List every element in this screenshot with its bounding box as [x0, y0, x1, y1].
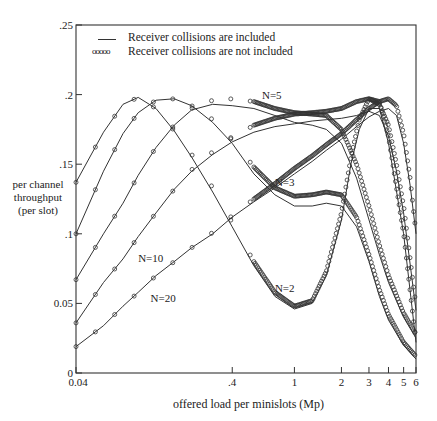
series-n-5 — [74, 97, 417, 338]
legend: Receiver collisions are included ooooo R… — [92, 30, 293, 58]
series-layer — [74, 97, 417, 359]
curve-label: N=5 — [262, 89, 282, 101]
y-tick-label: .1 — [65, 228, 73, 240]
x-axis-label: offered load per minislots (Mp) — [0, 397, 437, 412]
curve-label: N=3 — [275, 176, 295, 188]
x-tick-label: 5 — [401, 376, 407, 388]
legend-label-included: Receiver collisions are included — [128, 30, 275, 44]
y-label-line-3: (per slot) — [2, 204, 74, 217]
circle-marker-icon: ooooo — [92, 44, 128, 58]
y-tick-label: .2 — [65, 89, 73, 101]
curve-label: N=10 — [138, 252, 164, 264]
y-tick-label: .25 — [59, 19, 73, 31]
series-n-20 — [74, 97, 417, 349]
legend-item-not-included: ooooo Receiver collisions are not includ… — [92, 44, 293, 58]
legend-label-not-included: Receiver collisions are not included — [128, 44, 293, 58]
x-tick-label: .4 — [228, 376, 237, 388]
x-tick-label: 3 — [366, 376, 372, 388]
x-tick-label: 1 — [292, 376, 298, 388]
solid-line-icon — [92, 30, 128, 44]
x-tick-label: 6 — [413, 376, 419, 388]
x-tick-label: 2 — [339, 376, 345, 388]
curve-label: N=2 — [275, 282, 295, 294]
curve-label: N=20 — [151, 292, 177, 304]
y-label-line-2: throughput — [2, 191, 74, 204]
x-tick-label: 4 — [386, 376, 392, 388]
y-tick-label: .15 — [59, 158, 73, 170]
y-label-line-1: per channel — [2, 178, 74, 191]
x-tick-label: 0.04 — [68, 376, 88, 388]
y-tick-label: 0.05 — [54, 297, 74, 309]
legend-item-included: Receiver collisions are included — [92, 30, 293, 44]
series-n-2 — [74, 97, 417, 342]
y-axis-label: per channel throughput (per slot) — [2, 178, 74, 217]
